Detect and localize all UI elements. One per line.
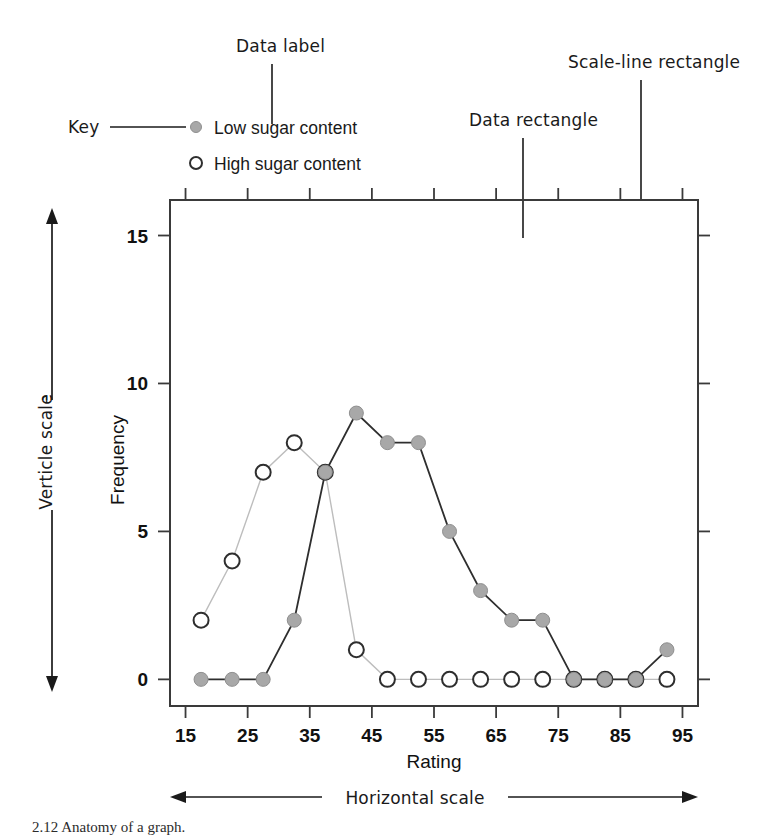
data-point-low-sugar — [474, 584, 488, 598]
data-point-low-sugar — [411, 436, 425, 450]
data-point-high-sugar — [380, 672, 395, 687]
x-axis-ticks-top — [186, 188, 683, 200]
data-point-high-sugar — [504, 672, 519, 687]
x-axis-title: Rating — [407, 751, 462, 772]
data-point-high-sugar — [225, 554, 240, 569]
x-tick-label: 15 — [175, 725, 197, 746]
annotation-data-rectangle: Data rectangle — [469, 110, 598, 238]
y-axis-ticks-right — [698, 236, 710, 680]
data-point-high-sugar — [659, 672, 674, 687]
series-line-low-sugar — [201, 413, 667, 679]
x-tick-label: 25 — [237, 725, 259, 746]
data-point-low-sugar — [256, 672, 270, 686]
annotation-key: Key — [68, 117, 186, 137]
y-axis-title: Frequency — [107, 415, 128, 505]
horizontal-scale-arrow-head-right-icon — [682, 791, 698, 803]
series-markers-high-sugar — [194, 435, 675, 687]
data-point-low-sugar — [287, 613, 301, 627]
y-tick-label: 10 — [127, 373, 148, 394]
vertical-scale-arrow-head-down-icon — [46, 676, 58, 692]
data-point-low-sugar — [567, 672, 581, 686]
data-rectangle — [194, 406, 675, 687]
series-line-high-sugar — [201, 443, 667, 680]
x-tick-label: 55 — [423, 725, 445, 746]
annotation-scale-line-rectangle-text: Scale-line rectangle — [568, 52, 740, 72]
legend-marker-filled-circle-icon — [191, 122, 202, 133]
x-tick-label: 45 — [361, 725, 383, 746]
data-point-low-sugar — [380, 436, 394, 450]
figure-anatomy-of-a-graph: Data label Scale-line rectangle Data rec… — [0, 0, 783, 835]
annotation-vertical-scale-label: Verticle scale — [36, 394, 56, 510]
legend-item-low-sugar[interactable]: Low sugar content — [191, 118, 358, 138]
annotation-horizontal-scale: Horizontal scale — [170, 784, 698, 810]
data-point-high-sugar — [287, 435, 302, 450]
data-point-high-sugar — [473, 672, 488, 687]
annotation-key-text: Key — [68, 117, 99, 137]
y-tick-label: 15 — [127, 226, 149, 247]
data-point-high-sugar — [256, 465, 271, 480]
y-tick-label: 0 — [137, 669, 148, 690]
x-axis-ticks-bottom — [186, 706, 683, 718]
data-point-high-sugar — [535, 672, 550, 687]
annotation-data-rectangle-text: Data rectangle — [469, 110, 598, 130]
x-tick-label: 75 — [548, 725, 570, 746]
legend-item-high-sugar[interactable]: High sugar content — [190, 154, 361, 174]
data-point-high-sugar — [349, 642, 364, 657]
data-point-high-sugar — [411, 672, 426, 687]
annotation-horizontal-scale-text: Horizontal scale — [345, 788, 484, 808]
annotation-data-label: Data label — [236, 36, 325, 124]
vertical-scale-arrow-head-up-icon — [46, 208, 58, 224]
data-point-low-sugar — [318, 465, 332, 479]
y-tick-label: 5 — [137, 521, 148, 542]
x-tick-label: 95 — [672, 725, 694, 746]
data-point-low-sugar — [443, 524, 457, 538]
x-tick-label: 35 — [299, 725, 321, 746]
series-markers-low-sugar — [194, 406, 674, 686]
x-tick-label: 85 — [610, 725, 632, 746]
y-axis-ticks-left — [158, 236, 170, 680]
data-point-low-sugar — [629, 672, 643, 686]
legend: Low sugar content High sugar content — [190, 118, 361, 174]
x-tick-label: 65 — [486, 725, 508, 746]
data-point-low-sugar — [598, 672, 612, 686]
scale-line-rectangle — [170, 200, 698, 706]
data-point-low-sugar — [225, 672, 239, 686]
figure-caption: 2.12 Anatomy of a graph. — [32, 819, 185, 835]
data-point-low-sugar — [194, 672, 208, 686]
data-point-low-sugar — [349, 406, 363, 420]
data-point-high-sugar — [194, 613, 209, 628]
legend-label-low-sugar: Low sugar content — [214, 118, 357, 138]
horizontal-scale-arrow-head-left-icon — [170, 791, 186, 803]
data-point-low-sugar — [536, 613, 550, 627]
data-point-high-sugar — [442, 672, 457, 687]
chart-canvas: Data label Scale-line rectangle Data rec… — [0, 0, 783, 835]
data-point-low-sugar — [660, 643, 674, 657]
y-axis-tick-labels: 051015 — [127, 226, 149, 691]
annotation-data-label-text: Data label — [236, 36, 325, 56]
x-axis-tick-labels: 152535455565758595 — [175, 725, 694, 746]
legend-marker-open-circle-icon — [190, 157, 202, 169]
data-point-low-sugar — [505, 613, 519, 627]
legend-label-high-sugar: High sugar content — [214, 154, 361, 174]
annotation-vertical-scale: Verticle scale Verticle scale — [36, 208, 66, 692]
